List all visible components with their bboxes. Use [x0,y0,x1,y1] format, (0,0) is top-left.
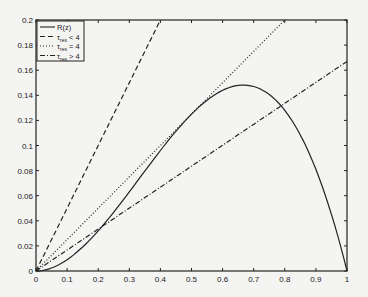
y-tick-label: 0.18 [17,41,33,50]
legend-label: R(z) [57,23,72,32]
x-tick-label: 0.1 [62,275,74,284]
x-tick-label: 0.9 [310,275,322,284]
y-tick-label: 0.12 [17,116,33,125]
y-tick-label: 0.2 [22,16,34,25]
line-chart: 00.10.20.30.40.50.60.70.80.9100.020.040.… [0,0,368,297]
series-line-3 [36,61,347,271]
x-tick-label: 0.8 [279,275,291,284]
y-tick-label: 0.08 [17,167,33,176]
y-tick-label: 0.1 [22,142,34,151]
y-tick-label: 0.16 [17,66,33,75]
series-line-0 [36,85,347,271]
y-tick-label: 0 [29,267,34,276]
x-tick-label: 0.5 [186,275,198,284]
y-tick-label: 0.14 [17,91,33,100]
x-tick-label: 0.2 [93,275,105,284]
y-tick-label: 0.06 [17,192,33,201]
x-tick-label: 1 [345,275,350,284]
legend: R(z)τres < 4τres = 4τres > 4 [37,21,84,62]
x-tick-label: 0.6 [217,275,229,284]
x-tick-label: 0 [34,275,39,284]
x-tick-label: 0.3 [124,275,136,284]
x-tick-label: 0.7 [248,275,260,284]
y-tick-label: 0.02 [17,242,33,251]
y-tick-label: 0.04 [17,217,33,226]
x-tick-label: 0.4 [155,275,167,284]
